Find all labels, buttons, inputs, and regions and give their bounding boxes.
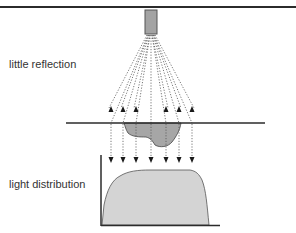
light-distribution-label: light distribution xyxy=(9,178,85,190)
light-emitter xyxy=(145,10,157,34)
light-distribution-curve xyxy=(102,170,209,225)
reflection-diagram xyxy=(0,0,296,233)
surface-pit xyxy=(124,123,181,147)
reflected-arrow-icons xyxy=(109,106,195,112)
downward-arrow-icons xyxy=(109,157,195,163)
little-reflection-label: little reflection xyxy=(9,58,76,70)
